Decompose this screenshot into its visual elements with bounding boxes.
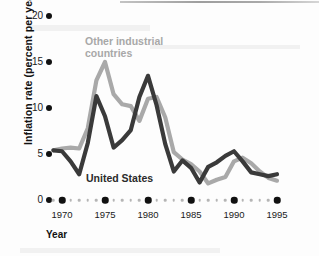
x-axis-minor-dot: [181, 199, 184, 202]
x-axis-minor-dot: [250, 199, 253, 202]
x-axis-major-dot: [274, 197, 281, 204]
x-axis-major-dot: [102, 197, 109, 204]
x-axis-major-dot: [59, 197, 66, 204]
x-axis-major-dot: [231, 197, 238, 204]
x-axis-minor-dot: [173, 199, 176, 202]
series-annotation-other-industrial: Other industrial countries: [85, 36, 163, 60]
x-axis-minor-dot: [259, 199, 262, 202]
x-axis-minor-dot: [241, 199, 244, 202]
x-tick-label-1980: 1980: [137, 209, 158, 220]
x-axis-major-dot: [145, 197, 152, 204]
x-tick-label-1970: 1970: [51, 209, 72, 220]
x-axis-minor-dot: [52, 199, 55, 202]
x-axis-minor-dot: [198, 199, 201, 202]
x-axis-major-dot: [188, 197, 195, 204]
x-axis-minor-dot: [78, 199, 81, 202]
inflation-line-chart: Inflation rate (percent per year) 051015…: [0, 0, 319, 256]
x-axis-minor-dot: [267, 199, 270, 202]
x-axis-minor-dot: [130, 199, 133, 202]
x-axis-minor-dot: [216, 199, 219, 202]
x-axis-minor-dot: [138, 199, 141, 202]
x-axis-minor-dot: [95, 199, 98, 202]
x-tick-label-1995: 1995: [266, 209, 287, 220]
x-axis-minor-dot: [69, 199, 72, 202]
x-axis-minor-dot: [207, 199, 210, 202]
x-tick-label-1975: 1975: [94, 209, 115, 220]
x-axis-minor-dot: [155, 199, 158, 202]
x-axis-minor-dot: [87, 199, 90, 202]
x-axis-minor-dot: [164, 199, 167, 202]
series-annotation-united-states: United States: [86, 173, 153, 185]
x-axis-title: Year: [46, 229, 67, 240]
x-tick-label-1990: 1990: [223, 209, 244, 220]
x-axis-minor-dot: [121, 199, 124, 202]
x-tick-label-1985: 1985: [180, 209, 201, 220]
x-axis-minor-dot: [224, 199, 227, 202]
x-axis-minor-dot: [112, 199, 115, 202]
